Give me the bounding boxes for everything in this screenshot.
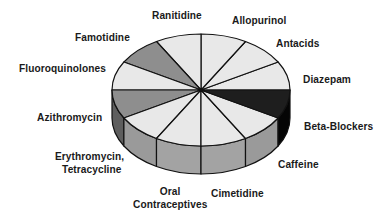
label-azithromycin: Azithromycin [37,111,102,124]
label-oral-contraceptives: Oral Contraceptives [133,185,207,211]
label-caffeine: Caffeine [278,158,319,171]
label-allopurinol: Allopurinol [232,14,286,27]
label-erythromycin-line1: Erythromycin, [55,150,124,163]
label-erythromycin-line2: Tetracycline [55,163,124,176]
label-oral-line1: Oral [133,185,207,198]
label-ranitidine: Ranitidine [152,9,202,22]
label-fluoroquinolones: Fluoroquinolones [19,62,106,75]
label-beta-blockers: Beta-Blockers [304,120,373,133]
label-famotidine: Famotidine [75,31,130,44]
label-oral-line2: Contraceptives [133,198,207,211]
label-antacids: Antacids [276,37,319,50]
pie-center-dot [199,88,203,92]
label-erythromycin-tetracycline: Erythromycin, Tetracycline [55,150,124,176]
label-cimetidine: Cimetidine [211,187,264,200]
label-diazepam: Diazepam [303,73,351,86]
